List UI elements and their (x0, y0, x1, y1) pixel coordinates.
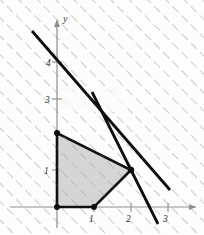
vertex-marker-2-1 (128, 167, 134, 173)
vertex-marker-0-2 (54, 130, 60, 136)
x-tick-label-1: 1 (89, 214, 94, 224)
y-tick-label-3: 3 (44, 95, 50, 105)
y-tick-label-1: 1 (44, 166, 49, 176)
vertex-marker-1-0 (91, 204, 97, 210)
x-tick-label-3: 3 (162, 214, 168, 224)
figure-canvas: y 1 2 3 1 3 4 (0, 0, 204, 235)
vertex-marker-origin (54, 204, 60, 210)
x-tick-label-2: 2 (126, 214, 131, 224)
graph-svg: y 1 2 3 1 3 4 (0, 0, 204, 235)
y-tick-label-4: 4 (46, 58, 51, 68)
y-axis-label: y (62, 13, 68, 24)
